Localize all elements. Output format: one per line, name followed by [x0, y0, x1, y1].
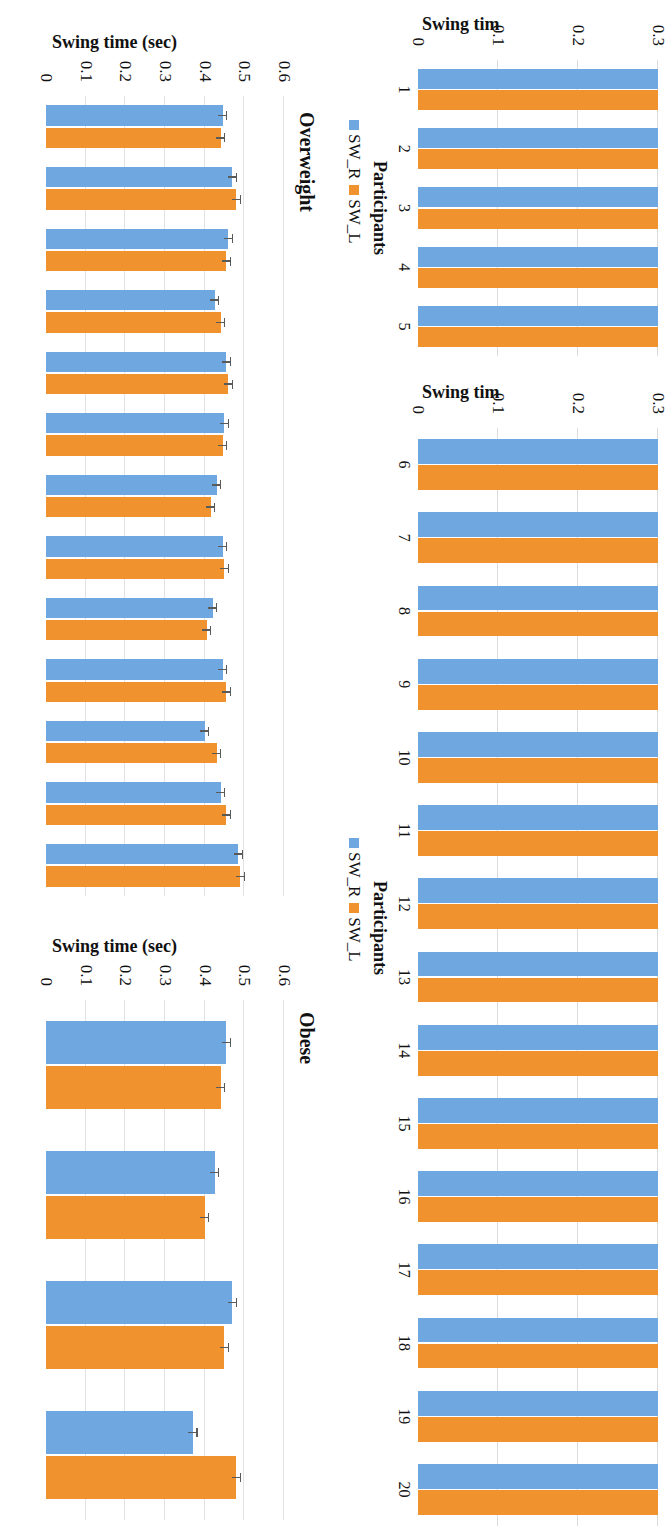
- error-bar-cap: [218, 1168, 220, 1177]
- gridline: [204, 96, 205, 896]
- bar-sw_r-15: [418, 1098, 658, 1123]
- x-axis-title-participants-1-5: Participants: [369, 161, 390, 255]
- bar-sw_r-9: [418, 659, 658, 684]
- y-tick-label: 0.6: [276, 61, 293, 82]
- legend-label-sw-l: SW_L: [344, 917, 364, 961]
- bar-sw_r-3: [46, 229, 228, 249]
- bar-sw_l-1: [418, 90, 658, 110]
- bar-sw_l-3: [46, 1326, 225, 1369]
- bar-sw_r-8: [418, 586, 658, 611]
- x-tick-label-7: 7: [396, 534, 412, 542]
- bar-sw_l-1: [46, 1066, 221, 1109]
- gridline: [283, 96, 284, 896]
- bar-sw_r-2: [418, 128, 658, 148]
- bar-sw_r-20: [418, 1464, 658, 1489]
- x-tick-label-12: 12: [396, 896, 412, 912]
- gridline: [283, 1000, 284, 1520]
- bar-sw_l-9: [46, 620, 207, 640]
- plot-area-overweight: [46, 96, 284, 896]
- bar-sw_l-17: [418, 1270, 658, 1295]
- bar-sw_l-15: [418, 1124, 658, 1149]
- legend-participants-6-20: SW_R SW_L: [344, 838, 364, 962]
- x-tick-label-10: 10: [396, 749, 412, 765]
- error-bar-cap: [236, 1298, 238, 1307]
- error-bar-cap: [224, 318, 226, 327]
- bar-sw_r-11: [418, 805, 658, 830]
- y-tick-label: 0: [38, 74, 55, 83]
- bar-sw_r-3: [418, 187, 658, 207]
- y-tick-label: 0.2: [117, 61, 134, 82]
- bar-sw_l-8: [46, 559, 225, 579]
- error-bar-cap: [216, 603, 218, 612]
- bar-sw_l-8: [418, 612, 658, 637]
- bar-sw_l-1: [46, 128, 221, 148]
- x-tick-label-9: 9: [396, 680, 412, 688]
- error-bar-cap: [236, 173, 238, 182]
- bar-sw_r-2: [46, 1151, 215, 1194]
- x-tick-label-8: 8: [396, 607, 412, 615]
- x-tick-label-2: 2: [396, 145, 412, 153]
- error-bar-cap: [226, 542, 228, 551]
- legend-label-sw-r: SW_R: [344, 852, 364, 897]
- bar-sw_r-11: [46, 721, 205, 741]
- legend-participants-1-5: SW_R SW_L: [344, 120, 364, 244]
- figure: 00.10.20.3 12345 Swing tim Participants …: [0, 0, 672, 1533]
- y-tick-label: 0.5: [236, 61, 253, 82]
- bar-sw_l-3: [46, 251, 226, 271]
- y-tick-label: 0.3: [650, 393, 667, 414]
- plot-area-obese: [46, 1000, 284, 1520]
- bar-sw_r-13: [418, 952, 658, 977]
- error-bar-cap: [218, 296, 220, 305]
- bar-sw_r-2: [46, 167, 232, 187]
- error-bar-cap: [240, 195, 242, 204]
- error-bar-cap: [232, 380, 234, 389]
- bar-sw_l-4: [46, 312, 221, 332]
- y-tick-label: 0.4: [197, 965, 214, 986]
- y-tick-label: 0.1: [78, 61, 95, 82]
- bar-sw_r-17: [418, 1244, 658, 1269]
- panel-overweight: Overweight 00.10.20.30.40.50.6 Swing tim…: [0, 0, 324, 900]
- y-tick-label: 0.5: [236, 965, 253, 986]
- bar-sw_l-5: [418, 327, 658, 347]
- y-tick-label: 0.2: [570, 25, 587, 46]
- y-tick-label: 0: [410, 38, 427, 47]
- bar-sw_l-12: [46, 805, 226, 825]
- bar-sw_r-10: [418, 732, 658, 757]
- y-tick-label: 0.2: [117, 965, 134, 986]
- y-axis-title-participants-1-5: Swing tim: [422, 14, 500, 35]
- legend-label-sw-r: SW_R: [344, 134, 364, 179]
- y-tick-label: 0.3: [157, 965, 174, 986]
- error-bar-cap: [196, 1428, 198, 1437]
- legend-label-sw-l: SW_L: [344, 199, 364, 243]
- error-bar-cap: [228, 564, 230, 573]
- bar-sw_r-8: [46, 536, 223, 556]
- bar-sw_l-6: [418, 465, 658, 490]
- bar-sw_l-2: [46, 1196, 205, 1239]
- error-bar-cap: [208, 727, 210, 736]
- plot-area-participants-6-20: [418, 428, 658, 1526]
- bar-sw_l-3: [418, 209, 658, 229]
- bar-sw_r-12: [46, 782, 221, 802]
- x-tick-label-14: 14: [396, 1042, 412, 1058]
- bar-sw_r-7: [418, 512, 658, 537]
- y-tick-label: 0.2: [570, 393, 587, 414]
- y-tick-label: 0.4: [197, 61, 214, 82]
- y-tick-label: 0.3: [157, 61, 174, 82]
- error-bar-cap: [224, 133, 226, 142]
- bar-sw_l-7: [46, 497, 211, 517]
- error-bar-cap: [230, 1038, 232, 1047]
- x-tick-label-1: 1: [396, 86, 412, 94]
- legend-item-sw-l: SW_L: [344, 185, 364, 243]
- error-bar-cap: [244, 872, 246, 881]
- error-bar-cap: [226, 441, 228, 450]
- bar-sw_r-1: [418, 69, 658, 89]
- bar-sw_l-18: [418, 1344, 658, 1369]
- error-bar-cap: [232, 234, 234, 243]
- y-tick-label: 0: [410, 406, 427, 415]
- x-tick-label-4: 4: [396, 263, 412, 271]
- bar-sw_r-19: [418, 1391, 658, 1416]
- bar-sw_r-1: [46, 1021, 226, 1064]
- bar-sw_r-4: [46, 1411, 193, 1454]
- bar-sw_r-4: [418, 247, 658, 267]
- bar-sw_r-5: [418, 306, 658, 326]
